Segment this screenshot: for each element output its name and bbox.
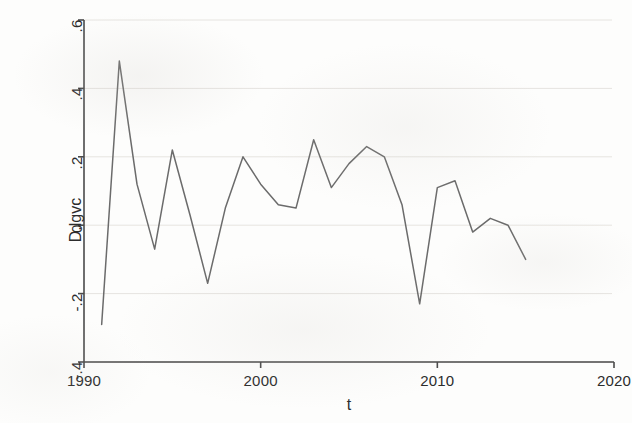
chart-figure: -.4-.20.2.4.61990200020102020 D.lgvc t xyxy=(0,0,632,423)
y-tick-label: .4 xyxy=(68,88,85,114)
x-tick-label: 2010 xyxy=(417,372,457,389)
axis-lines xyxy=(84,20,614,362)
data-series-line xyxy=(102,61,526,324)
y-tick-label: .6 xyxy=(68,20,85,46)
x-axis-title: t xyxy=(319,396,379,414)
x-tick-label: 2000 xyxy=(241,372,281,389)
line-chart-plot xyxy=(0,0,632,423)
x-tick-label: 1990 xyxy=(64,372,104,389)
x-tick-label: 2020 xyxy=(594,372,632,389)
x-axis-ticks xyxy=(84,362,614,368)
gridlines xyxy=(84,20,612,362)
y-tick-label: -.2 xyxy=(68,293,85,319)
y-tick-label: .2 xyxy=(68,156,85,182)
y-axis-title: D.lgvc xyxy=(67,190,85,250)
